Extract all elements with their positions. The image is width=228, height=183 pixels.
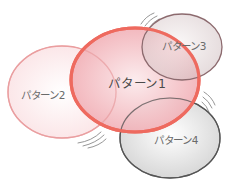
label-pattern3: パターン3: [162, 38, 206, 53]
label-pattern2: パターン2: [21, 87, 65, 102]
label-pattern4: パターン4: [154, 132, 198, 147]
label-pattern1: パターン1: [108, 73, 165, 92]
